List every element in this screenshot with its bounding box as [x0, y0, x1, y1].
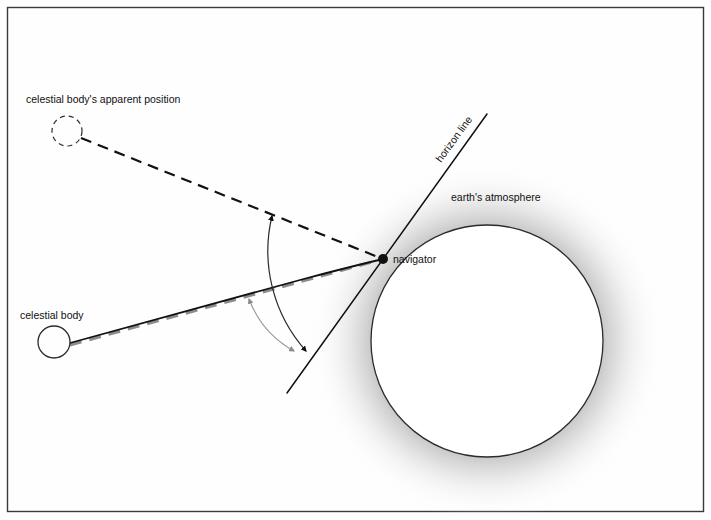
label-navigator: navigator	[393, 253, 437, 265]
label-apparent-position: celestial body's apparent position	[26, 93, 181, 105]
label-earths-atmosphere: earth's atmosphere	[451, 191, 541, 203]
celestial-body-circle	[38, 326, 70, 358]
navigator-dot	[378, 254, 388, 264]
refraction-diagram: celestial body's apparent position celes…	[0, 0, 711, 520]
apparent-position-circle	[52, 116, 82, 146]
label-celestial-body: celestial body	[20, 309, 84, 321]
diagram-canvas: celestial body's apparent position celes…	[0, 0, 711, 520]
